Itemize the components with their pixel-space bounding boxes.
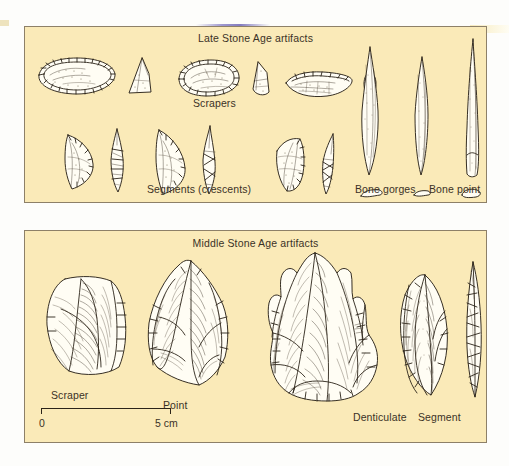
scale-tick-end [170,408,171,414]
bone-gorge-2 [407,55,437,177]
scraper-2-section [249,59,275,99]
panel-title-late-stone-age: Late Stone Age artifacts [25,32,486,44]
msa-segment-plan [391,271,455,401]
label-msa-point: Point [163,399,187,411]
label-segments: Segments (crescents) [147,183,251,195]
segment-1-plan [59,131,97,193]
scale-label-start: 0 [39,417,45,429]
scraper-3-plan [283,69,355,99]
msa-segment-section [457,259,491,403]
label-msa-segment: Segment [418,411,461,423]
segment-3-plan [269,135,309,195]
bone-point-1 [459,37,487,181]
figure-root: Late Stone Age artifacts [0,0,509,466]
scraper-1-section [125,55,157,97]
label-bone-point: Bone point [429,183,480,195]
label-bone-gorges: Bone gorges [355,183,416,195]
panel-middle-stone-age: Middle Stone Age artifacts [24,230,487,443]
segment-1-section [105,127,131,195]
scraper-2-plan [175,57,243,99]
segment-3-section [317,132,343,196]
label-msa-denticulate: Denticulate [353,411,407,423]
panel-late-stone-age: Late Stone Age artifacts [24,26,487,203]
panel-title-middle-stone-age: Middle Stone Age artifacts [25,237,486,249]
label-scrapers: Scrapers [193,97,236,109]
msa-point [139,257,239,392]
msa-scraper [41,273,133,383]
scale-label-end: 5 cm [155,417,178,429]
scale-tick-start [41,408,42,414]
scraper-1-plan [33,55,119,97]
scan-artifact-left [0,20,9,26]
msa-denticulate [243,249,391,414]
label-msa-scraper: Scraper [51,389,88,401]
bone-gorge-1 [353,45,387,177]
scale-bar-line [41,408,171,409]
